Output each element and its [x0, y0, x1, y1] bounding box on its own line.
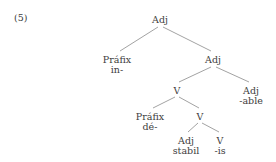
tree-edge [153, 97, 175, 108]
tree-node-adj-stabil: Adjstabil [173, 136, 200, 156]
tree-edge [179, 67, 211, 82]
tree-edge [163, 27, 211, 51]
tree-node-root: Adj [152, 15, 168, 25]
tree-edges [0, 0, 276, 162]
tree-node-prefix-de: Práfixdé- [136, 112, 164, 132]
tree-node-v-1: V [174, 86, 181, 96]
tree-edge [202, 123, 219, 132]
tree-edge [216, 67, 249, 82]
node-category-label: Adj [152, 15, 168, 25]
tree-edge [188, 123, 198, 132]
node-form-label: dé- [136, 122, 164, 132]
node-form-label: in- [103, 65, 131, 75]
tree-edge [179, 97, 199, 108]
node-form-label: -able [239, 96, 263, 106]
node-category-label: V [174, 86, 181, 96]
tree-node-v-is: V-is [214, 136, 225, 156]
tree-node-v-2: V [197, 112, 204, 122]
node-category-label: V [197, 112, 204, 122]
tree-node-prefix-in: Práfixin- [103, 55, 131, 75]
tree-node-adj-2: Adj [205, 55, 221, 65]
node-category-label: Adj [205, 55, 221, 65]
tree-node-adj-able: Adj-able [239, 86, 263, 106]
tree-edge [120, 27, 158, 51]
node-form-label: stabil [173, 146, 200, 156]
node-form-label: -is [214, 146, 225, 156]
